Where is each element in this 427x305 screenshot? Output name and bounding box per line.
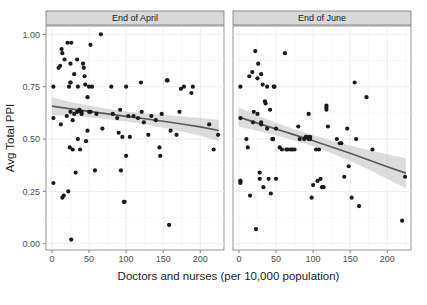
- data-point: [117, 131, 121, 135]
- data-point: [252, 110, 256, 114]
- data-point: [88, 110, 92, 114]
- data-point: [119, 168, 123, 172]
- data-point: [248, 193, 252, 197]
- data-point: [350, 196, 354, 200]
- y-axis-title: Avg Total PPI: [4, 104, 16, 173]
- data-point: [99, 32, 103, 36]
- data-point: [100, 126, 104, 130]
- data-point: [115, 116, 119, 120]
- x-tick-label: 200: [380, 254, 395, 264]
- x-tick-label: 0: [236, 254, 241, 264]
- data-point: [238, 181, 242, 185]
- data-point: [212, 147, 216, 151]
- data-point: [268, 108, 272, 112]
- data-point: [207, 122, 211, 126]
- data-point: [75, 57, 79, 61]
- x-axis-title: Doctors and nurses (per 10,000 populatio…: [118, 270, 340, 282]
- data-point: [166, 78, 170, 82]
- data-point: [272, 85, 276, 89]
- data-point: [88, 43, 92, 47]
- data-point: [269, 191, 273, 195]
- data-point: [146, 133, 150, 137]
- data-point: [80, 112, 84, 116]
- data-point: [347, 164, 351, 168]
- data-point: [131, 114, 135, 118]
- data-point: [321, 185, 325, 189]
- data-point: [339, 141, 343, 145]
- data-point: [298, 137, 302, 141]
- data-point: [123, 200, 127, 204]
- data-point: [66, 189, 70, 193]
- x-tick-label: 0: [49, 254, 54, 264]
- data-point: [76, 85, 80, 89]
- data-point: [111, 112, 115, 116]
- data-point: [71, 118, 75, 122]
- data-point: [140, 110, 144, 114]
- data-point: [182, 85, 186, 89]
- data-point: [139, 80, 143, 84]
- data-point: [60, 51, 64, 55]
- data-point: [251, 120, 255, 124]
- y-tick-label: 0.00: [22, 239, 40, 249]
- data-point: [310, 196, 314, 200]
- panel-background: [46, 26, 224, 250]
- data-point: [142, 120, 146, 124]
- facet-panel-june: End of June050100150200: [233, 11, 411, 264]
- data-point: [246, 145, 250, 149]
- data-point: [307, 112, 311, 116]
- data-point: [400, 219, 404, 223]
- data-point: [65, 114, 69, 118]
- data-point: [265, 85, 269, 89]
- data-point: [274, 177, 278, 181]
- data-point: [51, 116, 55, 120]
- data-point: [324, 108, 328, 112]
- data-point: [311, 183, 315, 187]
- data-point: [120, 135, 124, 139]
- y-tick-label: 0.50: [22, 134, 40, 144]
- data-point: [78, 147, 82, 151]
- data-point: [169, 129, 173, 133]
- data-point: [308, 137, 312, 141]
- facet-strip-label: End of June: [298, 13, 346, 23]
- data-point: [69, 237, 73, 241]
- scatter-plot-figure: End of April050100150200End of June05010…: [0, 0, 427, 305]
- data-point: [85, 129, 89, 133]
- data-point: [335, 137, 339, 141]
- data-point: [317, 147, 321, 151]
- data-point: [255, 76, 259, 80]
- facet-panel-april: End of April050100150200: [46, 11, 224, 264]
- data-point: [256, 62, 260, 66]
- data-point: [59, 47, 63, 51]
- facet-strip-label: End of April: [112, 13, 158, 23]
- x-tick-label: 150: [343, 254, 358, 264]
- data-point: [292, 147, 296, 151]
- x-tick-label: 200: [193, 254, 208, 264]
- data-point: [255, 112, 259, 116]
- x-tick-label: 100: [306, 254, 321, 264]
- data-point: [364, 95, 368, 99]
- data-point: [65, 41, 69, 45]
- data-point: [264, 101, 268, 105]
- data-point: [51, 85, 55, 89]
- data-point: [94, 112, 98, 116]
- data-point: [51, 181, 55, 185]
- data-point: [85, 95, 89, 99]
- data-point: [259, 122, 263, 126]
- data-point: [354, 137, 358, 141]
- y-tick-label: 0.25: [22, 187, 40, 197]
- data-point: [261, 83, 265, 87]
- data-point: [370, 147, 374, 151]
- x-tick-label: 100: [119, 254, 134, 264]
- data-point: [274, 126, 278, 130]
- data-point: [191, 85, 195, 89]
- data-point: [189, 91, 193, 95]
- data-point: [84, 139, 88, 143]
- data-point: [345, 126, 349, 130]
- data-point: [68, 62, 72, 66]
- data-point: [109, 85, 113, 89]
- data-point: [158, 154, 162, 158]
- data-point: [267, 177, 271, 181]
- data-point: [74, 170, 78, 174]
- data-point: [258, 170, 262, 174]
- data-point: [247, 74, 251, 78]
